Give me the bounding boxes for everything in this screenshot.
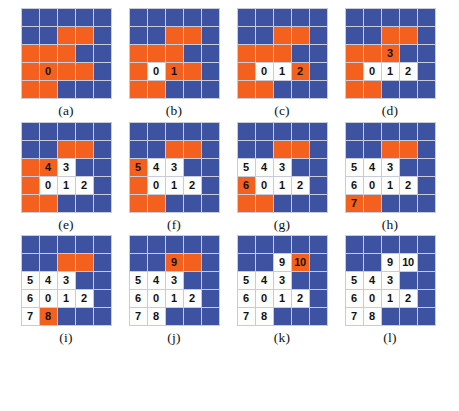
grid-cell (94, 45, 111, 62)
grid-i: 543601278 (21, 235, 112, 326)
grid-cell (40, 9, 57, 26)
grid-cell (40, 123, 57, 140)
grid-cell (58, 27, 75, 44)
panel-caption: (k) (274, 331, 290, 345)
grid-cell: 4 (40, 272, 57, 289)
grid-cell (202, 9, 219, 26)
grid-cell (364, 81, 381, 98)
grid-cell: 1 (382, 177, 399, 194)
grid-cell (76, 195, 93, 212)
grid-cell (292, 141, 309, 158)
grid-cell (40, 254, 57, 271)
grid-cell (166, 308, 183, 325)
grid-cell (418, 81, 435, 98)
grid-cell (400, 123, 417, 140)
grid-cell (310, 45, 327, 62)
grid-cell (40, 45, 57, 62)
grid-cell: 6 (22, 290, 39, 307)
grid-cell (166, 236, 183, 253)
grid-cell (346, 9, 363, 26)
grid-cell (166, 141, 183, 158)
panel-caption: (d) (382, 104, 398, 118)
grid-cell (94, 272, 111, 289)
figure-row-1: 0(a)01(b)012(c)3012(d) (12, 8, 453, 118)
grid-cell (202, 308, 219, 325)
grid-cell (400, 81, 417, 98)
grid-cell (94, 141, 111, 158)
grid-cell (364, 195, 381, 212)
grid-cell (292, 45, 309, 62)
grid-l: 910543601278 (345, 235, 436, 326)
grid-f: 543012 (129, 122, 220, 213)
grid-cell (292, 159, 309, 176)
grid-cell: 2 (400, 177, 417, 194)
grid-cell (148, 9, 165, 26)
figure-grid-progression: 0(a)01(b)012(c)3012(d) 43012(e)543012(f)… (0, 0, 459, 411)
grid-cell (130, 141, 147, 158)
grid-cell: 7 (346, 308, 363, 325)
grid-cell (238, 81, 255, 98)
grid-cell (400, 308, 417, 325)
grid-cell: 6 (238, 290, 255, 307)
grid-cell (382, 236, 399, 253)
grid-cell (184, 45, 201, 62)
grid-cell: 5 (346, 272, 363, 289)
grid-cell (382, 141, 399, 158)
grid-cell (256, 254, 273, 271)
grid-cell (94, 123, 111, 140)
grid-cell: 9 (382, 254, 399, 271)
panel-c: 012(c) (228, 8, 336, 118)
grid-cell (58, 81, 75, 98)
grid-cell: 1 (382, 290, 399, 307)
grid-cell (94, 236, 111, 253)
panel-caption: (h) (382, 218, 398, 232)
grid-cell: 5 (22, 272, 39, 289)
grid-cell (22, 123, 39, 140)
grid-cell (184, 63, 201, 80)
grid-cell: 4 (148, 159, 165, 176)
panel-i: 543601278(i) (12, 235, 120, 345)
grid-cell: 6 (130, 290, 147, 307)
grid-cell (310, 159, 327, 176)
grid-cell: 1 (382, 63, 399, 80)
grid-cell: 0 (40, 177, 57, 194)
grid-cell (184, 81, 201, 98)
grid-cell (418, 308, 435, 325)
grid-cell: 0 (148, 177, 165, 194)
grid-cell (310, 27, 327, 44)
grid-cell (310, 290, 327, 307)
grid-cell (130, 177, 147, 194)
grid-cell: 8 (40, 308, 57, 325)
grid-cell (130, 63, 147, 80)
grid-cell (400, 236, 417, 253)
grid-cell (274, 195, 291, 212)
grid-cell: 5 (238, 272, 255, 289)
panel-caption: (i) (59, 331, 72, 345)
grid-cell (418, 272, 435, 289)
grid-cell: 1 (58, 177, 75, 194)
grid-cell (364, 45, 381, 62)
grid-cell (148, 141, 165, 158)
grid-cell (22, 81, 39, 98)
grid-cell (22, 141, 39, 158)
grid-cell (202, 177, 219, 194)
grid-cell (130, 254, 147, 271)
grid-cell (22, 45, 39, 62)
grid-cell (238, 123, 255, 140)
grid-cell: 1 (58, 290, 75, 307)
grid-cell: 3 (58, 159, 75, 176)
grid-cell (184, 272, 201, 289)
grid-cell (94, 159, 111, 176)
grid-cell (202, 195, 219, 212)
grid-cell: 1 (166, 63, 183, 80)
grid-cell (274, 9, 291, 26)
panel-l: 910543601278(l) (336, 235, 444, 345)
grid-cell (274, 45, 291, 62)
grid-cell (94, 177, 111, 194)
grid-cell (256, 9, 273, 26)
grid-cell (166, 81, 183, 98)
grid-cell (40, 81, 57, 98)
grid-cell (418, 290, 435, 307)
grid-cell (202, 45, 219, 62)
grid-cell (130, 236, 147, 253)
